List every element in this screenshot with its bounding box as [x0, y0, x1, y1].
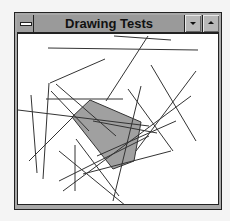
system-menu-icon [20, 22, 32, 26]
drawn-line [31, 95, 37, 173]
title-bar[interactable]: Drawing Tests [17, 15, 219, 33]
drawn-line [50, 59, 105, 83]
minimize-button[interactable] [184, 15, 201, 32]
minimize-arrow-icon [190, 22, 196, 25]
maximize-arrow-icon [208, 21, 214, 24]
drawn-line [136, 71, 196, 151]
drawn-line [48, 48, 198, 50]
drawn-line [29, 117, 73, 161]
drawing-surface [17, 33, 219, 205]
window-title: Drawing Tests [35, 15, 183, 32]
drawn-line [106, 36, 148, 101]
drawing-canvas[interactable] [17, 33, 219, 205]
system-menu-button[interactable] [17, 15, 34, 32]
drawn-line [43, 83, 49, 179]
drawn-line [114, 36, 171, 40]
drawing-tests-window: Drawing Tests [14, 12, 222, 210]
maximize-button[interactable] [202, 15, 219, 32]
